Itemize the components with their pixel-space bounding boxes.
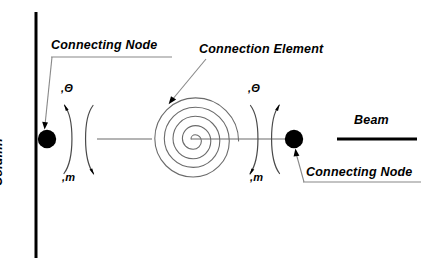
right-connecting-node bbox=[285, 130, 303, 148]
leader-connecting-node-top bbox=[45, 57, 52, 125]
diagram-canvas: Connecting Node Connection Element Beam … bbox=[0, 0, 425, 273]
label-column: Column bbox=[0, 138, 5, 186]
leader-arrowhead-connecting-node-bottom bbox=[294, 149, 300, 157]
leader-connection-element bbox=[172, 59, 206, 100]
leader-arrowhead-connecting-node-top bbox=[42, 122, 48, 130]
label-connecting-node-bottom: Connecting Node bbox=[306, 165, 412, 179]
left-arc-arrow-bottom bbox=[90, 168, 95, 175]
left-arc-arrow-top bbox=[64, 104, 69, 111]
spiral-connection-element bbox=[155, 98, 239, 177]
symbol-m-left: ,m bbox=[62, 171, 75, 183]
symbol-theta-left: ,Θ bbox=[61, 82, 73, 94]
right-arc-arrow-top bbox=[275, 104, 280, 111]
leader-connecting-node-bottom bbox=[296, 153, 304, 182]
left-rotation-arc-inner bbox=[86, 106, 94, 174]
left-rotation-arc-outer bbox=[64, 106, 72, 174]
label-connection-element: Connection Element bbox=[199, 42, 323, 56]
label-connecting-node-top: Connecting Node bbox=[51, 38, 157, 52]
symbol-m-right: ,m bbox=[250, 171, 263, 183]
symbol-theta-right: ,Θ bbox=[248, 82, 260, 94]
left-connecting-node bbox=[38, 130, 56, 148]
label-beam: Beam bbox=[354, 113, 389, 127]
